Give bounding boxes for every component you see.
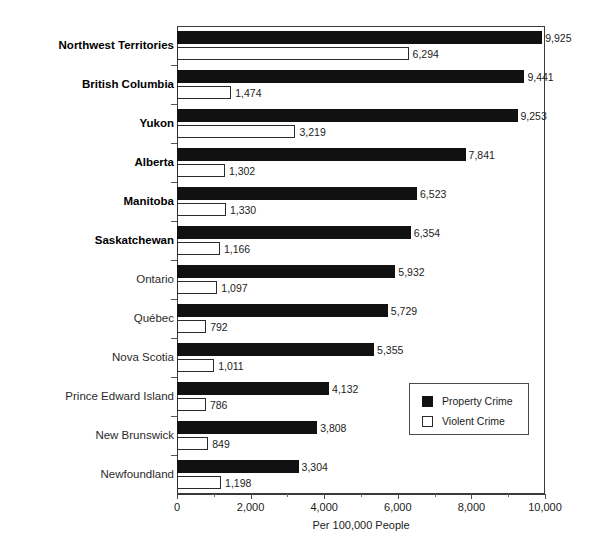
- bar-row: British Columbia9,4411,474: [0, 65, 594, 104]
- bar-property-crime: [177, 304, 388, 317]
- category-label: Manitoba: [0, 196, 174, 208]
- category-label: Ontario: [0, 274, 174, 286]
- y-axis-tick: [171, 182, 177, 183]
- bar-violent-crime: [177, 398, 206, 411]
- x-axis-minor-tick: [361, 494, 362, 497]
- y-axis-tick: [171, 65, 177, 66]
- bar-violent-crime: [177, 164, 225, 177]
- bar-value-property-crime: 5,932: [398, 267, 424, 278]
- bar-violent-crime: [177, 359, 214, 372]
- bar-value-violent-crime: 1,166: [224, 244, 250, 255]
- bar-row: Northwest Territories9,9256,294: [0, 26, 594, 65]
- category-label: Prince Edward Island: [0, 391, 174, 403]
- bar-property-crime: [177, 70, 524, 83]
- x-axis-tick-label: 6,000: [384, 502, 412, 513]
- bar-property-crime: [177, 382, 329, 395]
- x-axis-tick: [398, 494, 399, 499]
- y-axis-tick: [171, 416, 177, 417]
- category-label: Newfoundland: [0, 469, 174, 481]
- bar-property-crime: [177, 421, 317, 434]
- bar-property-crime: [177, 265, 395, 278]
- chart-page: Northwest Territories9,9256,294British C…: [0, 0, 594, 560]
- x-axis-tick-label: 8,000: [458, 502, 486, 513]
- category-label: Northwest Territories: [0, 40, 174, 52]
- bar-violent-crime: [177, 281, 217, 294]
- bar-value-property-crime: 9,441: [527, 72, 553, 83]
- bar-value-violent-crime: 1,302: [229, 166, 255, 177]
- bar-value-property-crime: 3,808: [320, 423, 346, 434]
- y-axis-tick: [171, 104, 177, 105]
- bar-value-property-crime: 4,132: [332, 384, 358, 395]
- x-axis-tick-label: 10,000: [528, 502, 562, 513]
- x-axis-title: Per 100,000 People: [177, 520, 545, 531]
- category-label: Alberta: [0, 157, 174, 169]
- chart-legend: Property Crime Violent Crime: [409, 383, 529, 435]
- y-axis-tick: [171, 338, 177, 339]
- bar-property-crime: [177, 460, 299, 473]
- bar-row: Nova Scotia5,3551,011: [0, 338, 594, 377]
- y-axis-tick: [171, 260, 177, 261]
- x-axis-tick-label: 2,000: [237, 502, 265, 513]
- bar-row: Ontario5,9321,097: [0, 260, 594, 299]
- bar-value-violent-crime: 1,097: [221, 283, 247, 294]
- category-label: British Columbia: [0, 79, 174, 91]
- hollow-square-icon: [422, 416, 433, 427]
- bar-property-crime: [177, 226, 411, 239]
- y-axis-tick: [171, 377, 177, 378]
- bar-row: Saskatchewan6,3541,166: [0, 221, 594, 260]
- category-label: Saskatchewan: [0, 235, 174, 247]
- filled-square-icon: [422, 396, 433, 407]
- y-axis-tick: [171, 221, 177, 222]
- bar-property-crime: [177, 343, 374, 356]
- x-axis-tick: [324, 494, 325, 499]
- category-label: New Brunswick: [0, 430, 174, 442]
- legend-label-property-crime: Property Crime: [442, 396, 513, 407]
- y-axis-tick: [171, 143, 177, 144]
- bar-value-violent-crime: 786: [210, 400, 228, 411]
- y-axis-tick: [171, 299, 177, 300]
- bar-violent-crime: [177, 476, 221, 489]
- category-label: Yukon: [0, 118, 174, 130]
- bar-violent-crime: [177, 242, 220, 255]
- bar-violent-crime: [177, 86, 231, 99]
- bar-violent-crime: [177, 125, 295, 138]
- bar-violent-crime: [177, 320, 206, 333]
- x-axis-tick-label: 4,000: [310, 502, 338, 513]
- category-label: Québec: [0, 313, 174, 325]
- bar-value-violent-crime: 1,330: [230, 205, 256, 216]
- legend-label-violent-crime: Violent Crime: [442, 416, 505, 427]
- bar-violent-crime: [177, 437, 208, 450]
- x-axis-minor-tick: [287, 494, 288, 497]
- legend-item-violent-crime: Violent Crime: [410, 411, 528, 431]
- bar-value-violent-crime: 1,198: [225, 478, 251, 489]
- category-label: Nova Scotia: [0, 352, 174, 364]
- legend-item-property-crime: Property Crime: [410, 391, 528, 411]
- x-axis-tick: [251, 494, 252, 499]
- bar-value-violent-crime: 792: [210, 322, 228, 333]
- x-axis-tick: [545, 494, 546, 499]
- bar-property-crime: [177, 109, 518, 122]
- bar-row: Alberta7,8411,302: [0, 143, 594, 182]
- x-axis-minor-tick: [214, 494, 215, 497]
- bar-value-violent-crime: 3,219: [299, 127, 325, 138]
- bar-property-crime: [177, 31, 542, 44]
- bar-value-property-crime: 6,354: [414, 228, 440, 239]
- bar-property-crime: [177, 148, 466, 161]
- x-axis-tick-label: 0: [174, 502, 180, 513]
- bar-value-violent-crime: 6,294: [413, 49, 439, 60]
- bar-row: Newfoundland3,3041,198: [0, 455, 594, 494]
- bar-value-property-crime: 7,841: [469, 150, 495, 161]
- bar-value-violent-crime: 1,474: [235, 88, 261, 99]
- bar-row: Québec5,729792: [0, 299, 594, 338]
- x-axis-minor-tick: [435, 494, 436, 497]
- bar-value-property-crime: 3,304: [302, 462, 328, 473]
- bar-value-property-crime: 5,355: [377, 345, 403, 356]
- x-axis-minor-tick: [508, 494, 509, 497]
- bar-violent-crime: [177, 203, 226, 216]
- bar-row: Manitoba6,5231,330: [0, 182, 594, 221]
- bar-value-violent-crime: 849: [212, 439, 230, 450]
- bar-value-property-crime: 6,523: [420, 189, 446, 200]
- bar-violent-crime: [177, 47, 409, 60]
- y-axis-tick: [171, 455, 177, 456]
- x-axis-tick: [177, 494, 178, 499]
